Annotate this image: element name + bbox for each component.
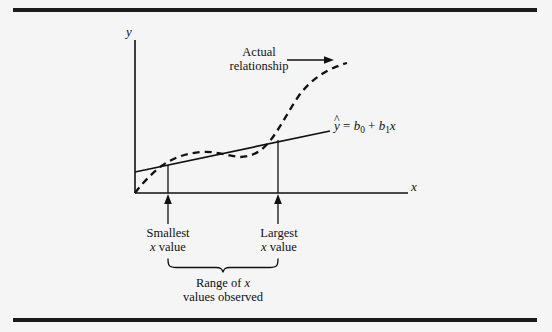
range-x-variable: x (245, 276, 251, 290)
smallest-x-value-label: Smallestx value (128, 226, 208, 254)
equation-equals: = (340, 118, 354, 133)
largest-x-line1: Largest (260, 226, 297, 240)
actual-relationship-line1: Actual (242, 45, 275, 59)
figure-page: y x Actualrelationship ^y = b0 + b1x Sma… (0, 0, 552, 332)
actual-relationship-label: Actualrelationship (218, 45, 300, 73)
x-axis-label: x (411, 180, 417, 195)
range-brace-icon (168, 259, 278, 272)
range-line1-prefix: Range of (196, 276, 245, 290)
smallest-x-line1: Smallest (146, 226, 189, 240)
regression-equation-label: ^y = b0 + b1x (334, 119, 396, 135)
y-hat-symbol: ^y (334, 119, 340, 134)
largest-x-line2-suffix: value (267, 240, 297, 254)
range-line2: values observed (183, 290, 263, 304)
range-of-x-label: Range of xvalues observed (163, 276, 283, 304)
largest-x-value-label: Largestx value (240, 226, 318, 254)
fitted-regression-line (135, 131, 330, 172)
smallest-x-arrowhead-icon (164, 194, 172, 204)
actual-relationship-arrowhead-icon (324, 56, 334, 64)
actual-relationship-curve (135, 63, 347, 193)
equation-plus: + (365, 118, 379, 133)
smallest-x-line2-suffix: value (156, 240, 186, 254)
largest-x-arrowhead-icon (274, 194, 282, 204)
y-axis-label: y (126, 25, 132, 40)
equation-x-variable: x (390, 118, 396, 133)
actual-relationship-line2: relationship (229, 59, 288, 73)
hat-accent-icon: ^ (334, 113, 340, 126)
